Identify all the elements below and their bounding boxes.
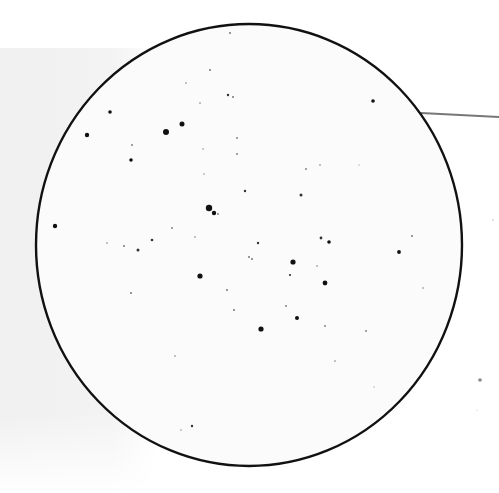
- star: [290, 259, 295, 264]
- star: [180, 429, 181, 430]
- star: [327, 240, 331, 244]
- stray-mark: [478, 378, 482, 382]
- star: [85, 133, 89, 137]
- star: [108, 110, 112, 114]
- star: [123, 245, 125, 247]
- star: [251, 258, 253, 260]
- star: [248, 256, 250, 258]
- star: [209, 69, 211, 71]
- star: [129, 158, 133, 162]
- star: [206, 205, 212, 211]
- star: [319, 164, 321, 166]
- star: [163, 129, 169, 135]
- star: [106, 242, 108, 244]
- star: [226, 289, 228, 291]
- star: [131, 144, 133, 146]
- star: [53, 224, 57, 228]
- star: [174, 355, 176, 357]
- star: [236, 153, 238, 155]
- star: [285, 305, 287, 307]
- star: [130, 292, 132, 294]
- outside-marks-group: [476, 219, 493, 410]
- star: [194, 236, 196, 238]
- star: [305, 168, 307, 170]
- star: [257, 242, 259, 244]
- star: [137, 249, 140, 252]
- star: [236, 137, 238, 139]
- star-field-sketch: [0, 0, 499, 493]
- star: [203, 173, 204, 174]
- star: [212, 211, 216, 215]
- star: [411, 235, 413, 237]
- star: [373, 386, 374, 387]
- star: [300, 194, 303, 197]
- stray-mark: [492, 219, 493, 220]
- star: [232, 96, 234, 98]
- star: [397, 250, 401, 254]
- pointer-line: [421, 113, 499, 117]
- star: [323, 281, 328, 286]
- eyepiece-field-circle: [36, 24, 462, 466]
- star: [422, 287, 424, 289]
- star: [289, 274, 291, 276]
- star: [151, 239, 154, 242]
- star: [324, 325, 326, 327]
- star: [365, 330, 367, 332]
- star: [229, 32, 231, 34]
- star: [320, 237, 323, 240]
- star: [197, 273, 202, 278]
- star: [233, 309, 235, 311]
- star: [295, 316, 299, 320]
- star: [191, 425, 193, 427]
- star: [171, 227, 173, 229]
- star: [217, 213, 219, 215]
- star: [316, 265, 318, 267]
- star: [180, 122, 185, 127]
- star: [185, 82, 187, 84]
- star: [227, 94, 229, 96]
- star: [244, 190, 246, 192]
- star: [202, 148, 203, 149]
- star: [358, 164, 359, 165]
- star: [334, 360, 336, 362]
- star: [258, 326, 263, 331]
- stray-mark: [476, 409, 477, 410]
- star: [199, 102, 201, 104]
- star: [371, 99, 375, 103]
